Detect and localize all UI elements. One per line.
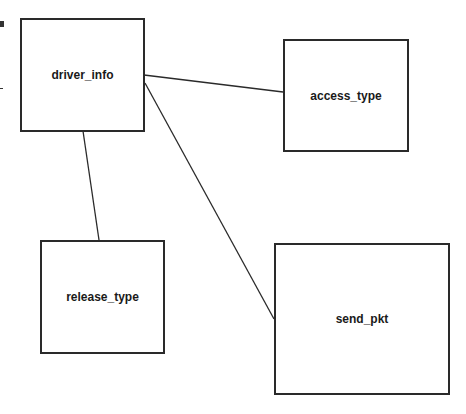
node-release-type[interactable]: release_type: [40, 240, 165, 354]
node-label: access_type: [310, 89, 381, 103]
edge-driver-info-access-type: [144, 75, 283, 92]
edge-driver-info-release-type: [83, 131, 99, 240]
node-label: send_pkt: [336, 312, 389, 326]
node-access-type[interactable]: access_type: [283, 39, 409, 152]
node-label: release_type: [66, 290, 139, 304]
node-label: driver_info: [51, 68, 113, 82]
node-send-pkt[interactable]: send_pkt: [274, 243, 450, 395]
node-driver-info[interactable]: driver_info: [20, 18, 145, 132]
